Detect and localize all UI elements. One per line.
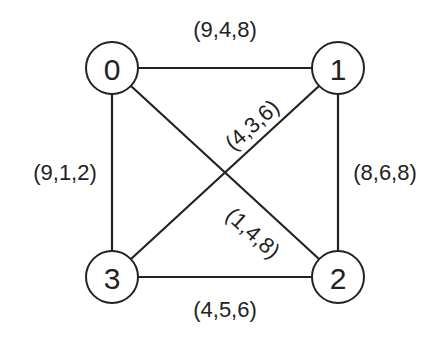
edge-label-0-1: (9,4,8) <box>193 17 257 42</box>
edge-label-3-2: (4,5,6) <box>193 297 257 322</box>
edge-label-1-2: (8,6,8) <box>353 160 417 185</box>
node-1: 1 <box>312 42 364 94</box>
node-3: 3 <box>86 251 138 303</box>
graph-diagram: (9,4,8) (9,1,2) (8,6,8) (4,5,6) (4,3,6) … <box>0 0 447 343</box>
node-label-3: 3 <box>104 262 121 295</box>
edge-label-0-2: (1,4,8) <box>221 202 285 263</box>
node-2: 2 <box>312 251 364 303</box>
node-label-0: 0 <box>104 53 121 86</box>
node-label-2: 2 <box>330 262 347 295</box>
edge-label-0-3: (9,1,2) <box>33 160 97 185</box>
node-label-1: 1 <box>330 53 347 86</box>
node-0: 0 <box>86 42 138 94</box>
